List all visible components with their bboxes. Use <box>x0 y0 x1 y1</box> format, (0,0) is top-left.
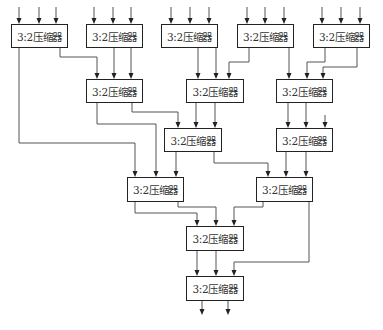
compressor-d: 3:2压缩器 <box>237 24 294 48</box>
wallace-tree-diagram: 3:2压缩器 3:2压缩器 3:2压缩器 3:2压缩器 3:2压缩器 3:2压缩… <box>0 0 383 330</box>
wire-paths <box>19 7 360 312</box>
compressor-a: 3:2压缩器 <box>11 24 68 48</box>
compressor-h: 3:2压缩器 <box>276 79 333 103</box>
compressor-e: 3:2压缩器 <box>313 24 370 48</box>
compressor-l: 3:2压缩器 <box>256 177 313 202</box>
compressor-f: 3:2压缩器 <box>86 79 143 103</box>
compressor-i: 3:2压缩器 <box>164 128 222 152</box>
arrowheads <box>17 18 363 315</box>
compressor-g: 3:2压缩器 <box>186 79 244 103</box>
compressor-k: 3:2压缩器 <box>127 177 184 202</box>
compressor-m: 3:2压缩器 <box>186 226 244 251</box>
compressor-c: 3:2压缩器 <box>161 24 218 48</box>
compressor-n: 3:2压缩器 <box>186 276 244 301</box>
compressor-j: 3:2压缩器 <box>276 128 333 152</box>
compressor-b: 3:2压缩器 <box>86 24 143 48</box>
